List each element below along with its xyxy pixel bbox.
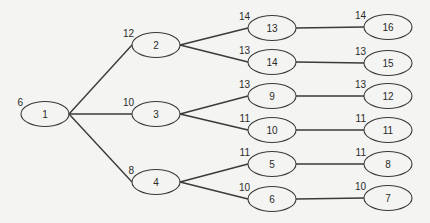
node-12: 1213 (355, 79, 412, 109)
edge-4-to-5 (180, 164, 248, 182)
edge-3-to-9 (180, 96, 248, 114)
node-3: 310 (123, 97, 180, 127)
node-2: 212 (123, 28, 180, 58)
node-label: 9 (269, 91, 275, 102)
node-label: 5 (269, 159, 275, 170)
node-weight-label: 10 (123, 97, 135, 108)
node-weight-label: 13 (355, 79, 367, 90)
node-4: 48 (128, 165, 180, 195)
node-10: 1011 (240, 113, 296, 143)
node-label: 8 (385, 159, 391, 170)
edge-1-to-4 (69, 114, 132, 182)
node-weight-label: 11 (356, 113, 367, 124)
node-weight-label: 13 (355, 46, 367, 57)
edge-14-to-15 (296, 62, 364, 63)
node-weight-label: 11 (240, 113, 251, 124)
edge-6-to-7 (296, 198, 364, 199)
node-16: 1614 (355, 10, 412, 40)
node-label: 1 (42, 109, 48, 120)
node-label: 6 (269, 194, 275, 205)
node-label: 15 (382, 58, 394, 69)
node-weight-label: 6 (17, 97, 23, 108)
node-label: 3 (153, 109, 159, 120)
edges-layer (69, 27, 364, 199)
node-11: 1111 (356, 113, 412, 143)
node-weight-label: 10 (239, 182, 251, 193)
node-8: 811 (356, 147, 412, 177)
node-weight-label: 14 (355, 10, 367, 21)
node-label: 16 (382, 22, 394, 33)
node-7: 710 (355, 181, 412, 211)
edge-3-to-10 (180, 114, 248, 130)
node-label: 14 (266, 57, 278, 68)
node-1: 16 (17, 97, 69, 127)
node-weight-label: 11 (356, 147, 367, 158)
node-weight-label: 14 (239, 11, 251, 22)
nodes-layer: 1621231048131414139131011511610161415131… (17, 10, 412, 212)
node-label: 11 (383, 125, 394, 136)
edge-2-to-13 (180, 28, 248, 45)
tree-diagram: 1621231048131414139131011511610161415131… (0, 0, 430, 223)
node-label: 2 (153, 40, 159, 51)
node-6: 610 (239, 182, 296, 212)
node-label: 4 (153, 177, 159, 188)
node-weight-label: 13 (239, 79, 251, 90)
node-15: 1513 (355, 46, 412, 76)
node-label: 12 (382, 91, 394, 102)
node-weight-label: 10 (355, 181, 367, 192)
node-weight-label: 13 (239, 45, 251, 56)
node-weight-label: 11 (240, 147, 251, 158)
node-label: 13 (266, 23, 278, 34)
node-14: 1413 (239, 45, 296, 75)
edge-4-to-6 (180, 182, 248, 199)
edge-2-to-14 (180, 45, 248, 62)
node-label: 10 (266, 125, 278, 136)
node-13: 1314 (239, 11, 296, 41)
node-weight-label: 8 (128, 165, 134, 176)
node-label: 7 (385, 193, 391, 204)
node-5: 511 (240, 147, 296, 177)
edge-13-to-16 (296, 27, 364, 28)
node-weight-label: 12 (123, 28, 135, 39)
node-9: 913 (239, 79, 296, 109)
